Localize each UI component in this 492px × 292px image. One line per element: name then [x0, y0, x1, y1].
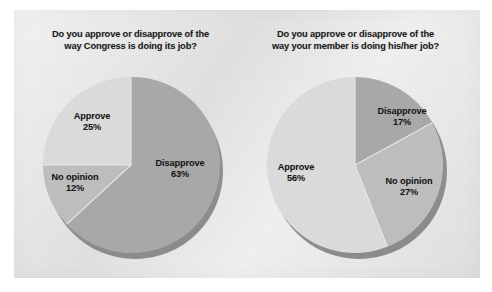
slice-label-pct: 25%	[58, 122, 126, 133]
figure-root: Do you approve or disapprove of the way …	[0, 0, 492, 292]
chart-panel-congress: Do you approve or disapprove of the way …	[14, 10, 247, 278]
chart-panel-member: Do you approve or disapprove of the way …	[239, 10, 472, 278]
chart-title-member: Do you approve or disapprove of the way …	[239, 28, 472, 53]
slice-label-member-disapprove: Disapprove 17%	[360, 106, 444, 128]
slice-label-congress-no-opinion: No opinion 12%	[36, 172, 114, 194]
slice-label-text: No opinion	[386, 176, 433, 186]
slice-label-pct: 17%	[360, 117, 444, 128]
slice-label-text: Disapprove	[377, 106, 426, 116]
slice-label-text: Approve	[74, 111, 111, 121]
slice-label-pct: 56%	[259, 173, 333, 184]
slice-label-text: No opinion	[52, 172, 99, 182]
chart-title-congress: Do you approve or disapprove of the way …	[14, 28, 247, 53]
slice-separators-congress	[43, 77, 131, 224]
slice-label-pct: 63%	[138, 169, 222, 180]
slice-separators-member	[355, 77, 432, 247]
slice-label-member-approve: Approve 56%	[259, 162, 333, 184]
slice-label-text: Disapprove	[155, 158, 204, 168]
slice-label-pct: 27%	[365, 187, 453, 198]
slice-label-congress-disapprove: Disapprove 63%	[138, 158, 222, 180]
slice-label-pct: 12%	[36, 183, 114, 194]
slice-label-text: Approve	[278, 162, 315, 172]
slice-label-congress-approve: Approve 25%	[58, 111, 126, 133]
slice-label-member-no-opinion: No opinion 27%	[365, 176, 453, 198]
